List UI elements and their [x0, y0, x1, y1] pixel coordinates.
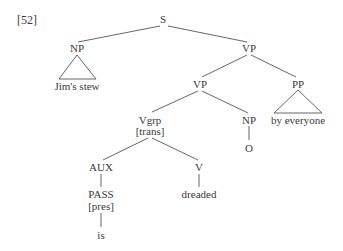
- example-number: [52]: [17, 13, 37, 28]
- node-vp-inner: VP: [193, 78, 207, 90]
- node-s: S: [160, 13, 166, 25]
- node-subject-np: NP: [70, 42, 84, 54]
- vgrp-feature: [trans]: [136, 125, 165, 137]
- verb-word: dreaded: [182, 188, 217, 200]
- node-object-np: NP: [242, 114, 256, 126]
- object-text: O: [245, 142, 253, 154]
- pp-text: by everyone: [271, 114, 325, 126]
- pass-feature: [pres]: [88, 200, 114, 212]
- aux-word: is: [97, 229, 104, 241]
- subject-text: Jim's stew: [54, 80, 99, 92]
- node-pp: PP: [292, 78, 304, 90]
- node-v: V: [195, 161, 203, 173]
- node-vp-top: VP: [242, 42, 256, 54]
- node-aux: AUX: [89, 161, 113, 173]
- node-pass: PASS: [88, 188, 113, 200]
